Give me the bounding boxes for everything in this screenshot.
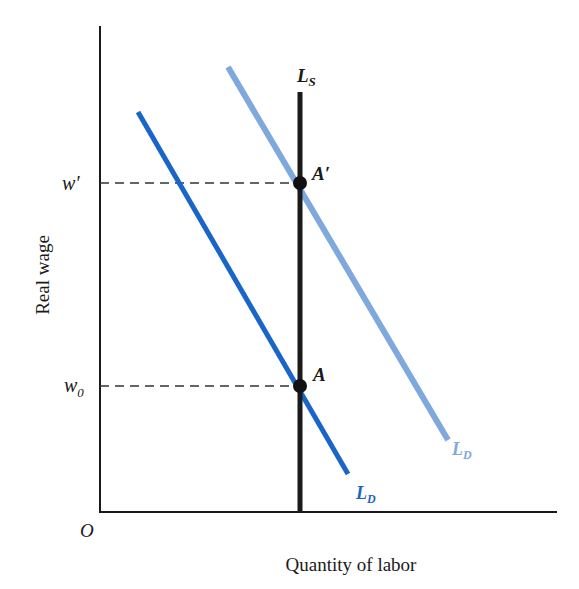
point-a-marker — [293, 379, 307, 393]
y-axis-label: Real wage — [32, 235, 53, 315]
point-a-prime-marker — [293, 176, 307, 190]
point-a-prime-label: A′ — [311, 163, 330, 184]
ld-shifted-label: LD — [451, 439, 472, 462]
demand-curve-shifted — [228, 67, 448, 440]
w0-tick-label: w0 — [64, 374, 84, 400]
ls-label: LS — [296, 65, 316, 89]
ld-label: LD — [355, 483, 376, 506]
point-a-label: A — [312, 364, 326, 385]
x-axis-label: Quantity of labor — [286, 554, 418, 575]
w-prime-tick-label: w′ — [62, 172, 80, 194]
labor-market-chart: LS A′ A LD LD w′ w0 O Quantity of labor … — [0, 0, 579, 589]
origin-label: O — [80, 520, 94, 541]
